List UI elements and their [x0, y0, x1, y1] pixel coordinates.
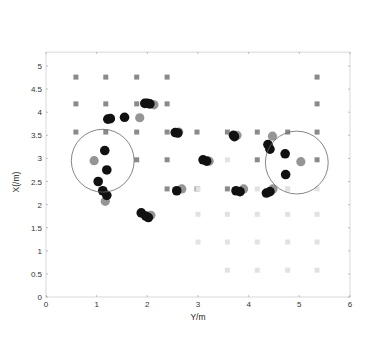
- y-tick-label: 4: [38, 108, 43, 117]
- x-tick-label: 1: [94, 300, 99, 309]
- grid-marker: [255, 130, 260, 135]
- true-position-marker: [296, 157, 305, 166]
- x-tick-label: 2: [145, 300, 150, 309]
- grid-marker: [165, 186, 170, 191]
- true-position-marker: [135, 113, 144, 122]
- grid-marker: [225, 268, 230, 273]
- grid-marker: [315, 186, 320, 191]
- y-tick-label: 0.5: [31, 270, 43, 279]
- grid-marker: [255, 186, 260, 191]
- grid-marker: [196, 186, 201, 191]
- estimated-position-marker: [280, 149, 290, 159]
- grid-marker: [134, 101, 139, 106]
- estimated-position-marker: [120, 112, 130, 122]
- true-position-marker: [90, 156, 99, 165]
- y-tick-label: 2: [38, 201, 43, 210]
- grid-marker: [134, 130, 139, 135]
- grid-marker: [225, 240, 230, 245]
- estimated-position-marker: [93, 177, 103, 187]
- grid-marker: [315, 212, 320, 217]
- estimated-position-marker: [230, 132, 240, 142]
- y-tick-label: 2.5: [31, 178, 43, 187]
- y-axis-label: X(/m): [11, 171, 21, 192]
- x-tick-label: 6: [348, 300, 353, 309]
- x-axis-label: Y/m: [190, 312, 205, 322]
- grid-marker: [196, 240, 201, 245]
- y-tick-label: 3.5: [31, 131, 43, 140]
- grid-marker: [315, 240, 320, 245]
- x-tick-label: 4: [246, 300, 251, 309]
- y-tick-label: 0: [38, 293, 43, 302]
- estimated-position-marker: [144, 213, 154, 223]
- grid-marker: [165, 75, 170, 80]
- estimated-position-marker: [281, 170, 291, 180]
- y-tick-label: 1.5: [31, 224, 43, 233]
- grid-marker: [255, 268, 260, 273]
- estimated-position-marker: [265, 187, 275, 197]
- grid-marker: [134, 157, 139, 162]
- estimated-position-marker: [145, 99, 155, 109]
- grid-marker: [285, 186, 290, 191]
- grid-marker: [315, 268, 320, 273]
- grid-marker: [225, 212, 230, 217]
- grid-marker: [103, 130, 108, 135]
- grid-marker: [165, 130, 170, 135]
- plot-frame: [46, 52, 350, 297]
- grid-marker: [285, 240, 290, 245]
- x-tick-label: 3: [196, 300, 201, 309]
- grid-marker: [255, 212, 260, 217]
- grid-marker: [134, 75, 139, 80]
- estimated-position-marker: [100, 146, 110, 156]
- grid-marker: [73, 101, 78, 106]
- grid-marker: [255, 240, 260, 245]
- grid-marker: [315, 75, 320, 80]
- estimated-position-marker: [106, 114, 116, 124]
- estimated-position-marker: [172, 186, 182, 196]
- y-tick-label: 5: [38, 62, 43, 71]
- estimated-position-marker: [235, 187, 245, 197]
- grid-marker: [225, 186, 230, 191]
- grid-marker: [165, 157, 170, 162]
- estimated-position-marker: [102, 165, 112, 175]
- grid-marker: [315, 101, 320, 106]
- grid-marker: [285, 212, 290, 217]
- main-axes: [46, 52, 350, 297]
- scatter-chart: 012345600.511.522.533.544.55 Y/m X(/m): [0, 0, 372, 337]
- main-tick-labels: 012345600.511.522.533.544.55: [31, 62, 353, 309]
- grid-marker: [315, 157, 320, 162]
- y-tick-label: 4.5: [31, 85, 43, 94]
- estimated-position-marker: [202, 156, 212, 166]
- y-tick-label: 1: [38, 247, 43, 256]
- grid-marker: [103, 75, 108, 80]
- estimated-position-marker: [173, 128, 183, 138]
- grid-marker: [73, 130, 78, 135]
- grid-marker: [255, 157, 260, 162]
- grid-marker: [225, 157, 230, 162]
- x-tick-label: 5: [297, 300, 302, 309]
- grid-marker: [285, 268, 290, 273]
- grid-marker: [165, 101, 170, 106]
- main-series: [73, 75, 319, 273]
- grid-marker: [315, 130, 320, 135]
- grid-marker: [194, 130, 199, 135]
- y-tick-label: 3: [38, 154, 43, 163]
- grid-marker: [73, 75, 78, 80]
- grid-marker: [196, 212, 201, 217]
- x-tick-label: 0: [44, 300, 49, 309]
- grid-marker: [103, 101, 108, 106]
